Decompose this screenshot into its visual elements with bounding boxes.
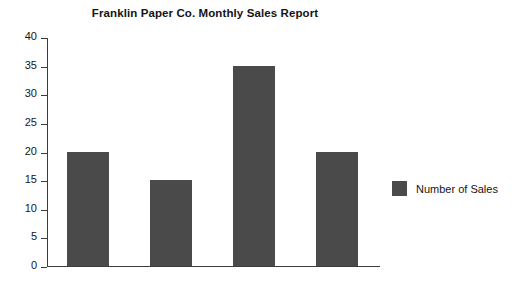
y-tick-label-20: 20 (25, 145, 37, 157)
y-tick-label-5: 5 (31, 230, 37, 242)
y-tick-20: 20 (41, 153, 47, 154)
bar-slot (131, 38, 214, 266)
bar (150, 180, 192, 266)
x-axis-line (47, 266, 380, 267)
bar-series-number-of-sales (48, 38, 380, 266)
bar (316, 152, 358, 267)
y-tick-10: 10 (41, 210, 47, 211)
y-tick-40: 40 (41, 38, 47, 39)
y-tick-label-10: 10 (25, 202, 37, 214)
bar-slot (214, 38, 297, 266)
chart-title: Franklin Paper Co. Monthly Sales Report (40, 7, 370, 19)
y-tick-30: 30 (41, 95, 47, 96)
bar (233, 66, 275, 266)
y-tick-35: 35 (41, 67, 47, 68)
plot-area: 0510152025303540 J. HowardS. JonesA. Mar… (47, 38, 380, 267)
y-tick-25: 25 (41, 124, 47, 125)
y-tick-label-25: 25 (25, 116, 37, 128)
chart-legend: Number of Sales (392, 181, 498, 196)
y-tick-0: 0 (41, 267, 47, 268)
y-tick-label-40: 40 (25, 30, 37, 42)
bar-slot (297, 38, 380, 266)
bar-chart-figure: Franklin Paper Co. Monthly Sales Report … (0, 0, 516, 305)
y-tick-5: 5 (41, 238, 47, 239)
bar-slot (48, 38, 131, 266)
y-tick-15: 15 (41, 181, 47, 182)
legend-label-number-of-sales: Number of Sales (416, 183, 498, 195)
y-tick-label-35: 35 (25, 59, 37, 71)
y-tick-label-30: 30 (25, 87, 37, 99)
legend-swatch-number-of-sales (392, 181, 407, 196)
y-tick-label-15: 15 (25, 173, 37, 185)
bar (67, 152, 109, 267)
y-tick-label-0: 0 (31, 259, 37, 271)
